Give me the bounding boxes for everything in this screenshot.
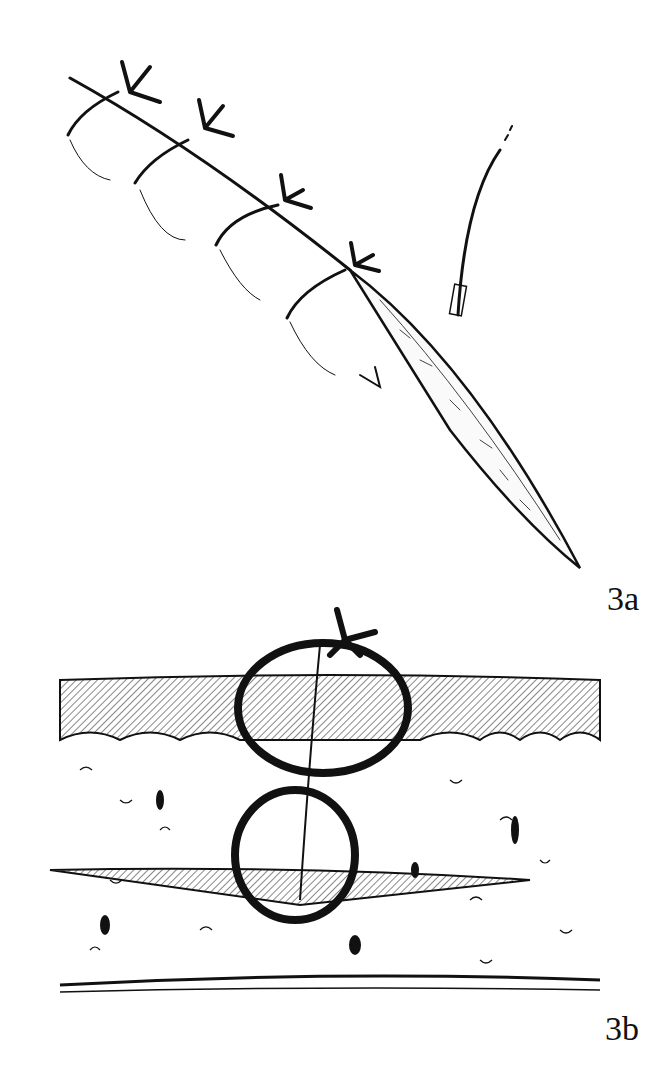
- figure-panel-3b: 3b: [0, 600, 667, 1076]
- skin-cross-section-illustration: [0, 600, 667, 1076]
- figure-panel-3a: 3a: [0, 0, 667, 600]
- panel-label-3b: 3b: [605, 1010, 639, 1048]
- running-suture-illustration: [0, 0, 667, 600]
